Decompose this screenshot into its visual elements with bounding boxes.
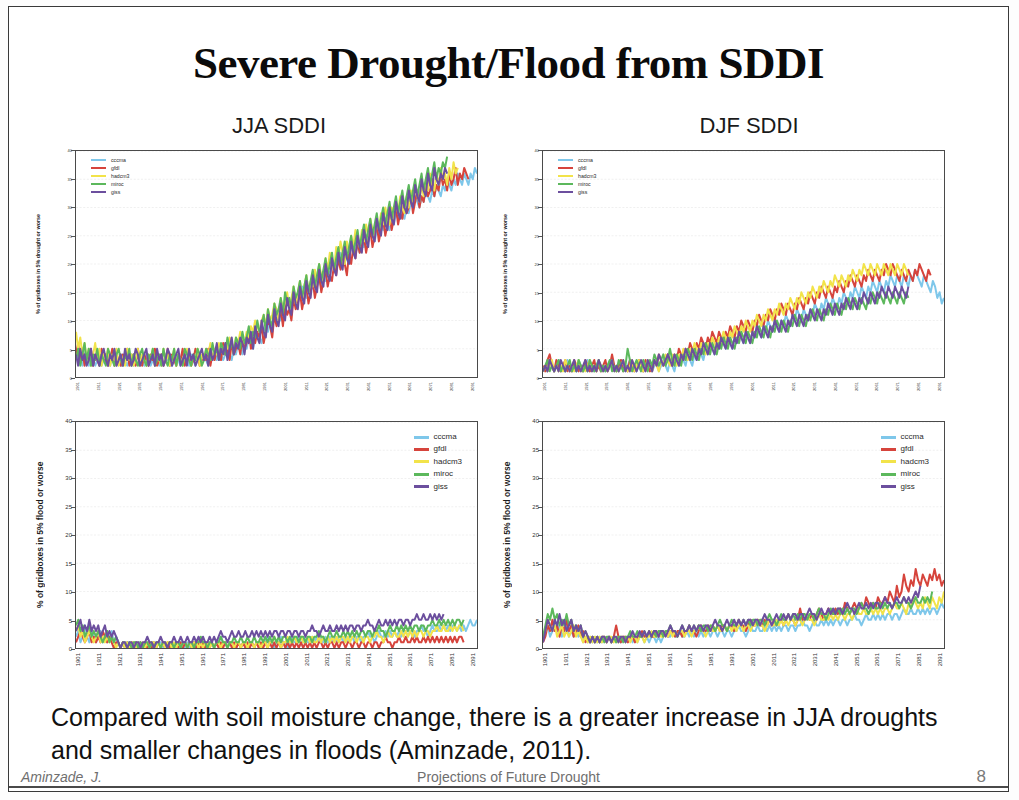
legend-label: cccma: [434, 431, 457, 443]
plot-area-djf-flood: 0510152025303540190119111921193119411951…: [542, 421, 945, 649]
legend-label: miroc: [434, 468, 454, 480]
x-tick-label: 1941: [625, 653, 631, 666]
plot-frame: [542, 150, 945, 378]
legend-label: cccma: [901, 431, 924, 443]
y-axis-label: % of gridboxes in 5% drought or worse: [35, 150, 41, 378]
x-tick-label: 2041: [833, 382, 838, 391]
x-tick-label: 1921: [117, 382, 122, 391]
y-tick-mark: [71, 421, 75, 422]
x-tick-label: 1901: [75, 653, 81, 666]
legend-label: giss: [578, 188, 587, 196]
legend-swatch-icon: [881, 448, 896, 451]
x-tick-label: 1991: [729, 653, 735, 666]
x-tick-label: 2051: [854, 653, 860, 666]
y-axis-label: % of gridboxes in 5% drought or worse: [502, 150, 508, 378]
legend-item-cccma: cccma: [881, 431, 929, 443]
x-tick-label: 1961: [200, 653, 206, 666]
x-tick-label: 2061: [874, 653, 880, 666]
footer-page-number: 8: [977, 767, 986, 787]
legend-label: gfdl: [578, 164, 586, 172]
x-tick-label: 2011: [304, 382, 309, 391]
x-tick-label: 1931: [604, 653, 610, 666]
y-tick-mark: [71, 236, 75, 237]
y-tick-mark: [71, 321, 75, 322]
x-tick-label: 2031: [812, 653, 818, 666]
legend-item-gfdl: gfdl: [91, 164, 129, 172]
x-tick-label: 1951: [179, 653, 185, 666]
x-tick-label: 2061: [407, 653, 413, 666]
x-tick-label: 2091: [937, 382, 942, 391]
x-tick-label: 1981: [708, 653, 714, 666]
y-tick-mark: [538, 592, 542, 593]
x-tick-label: 1931: [604, 382, 609, 391]
x-tick-label: 2021: [324, 653, 330, 666]
legend-item-hadcm3: hadcm3: [414, 456, 462, 468]
x-tick-label: 2041: [833, 653, 839, 666]
chart-legend: cccmagfdlhadcm3mirocgiss: [91, 156, 129, 196]
x-tick-label: 2011: [771, 382, 776, 391]
x-tick-label: 1971: [687, 653, 693, 666]
legend-label: giss: [901, 481, 915, 493]
x-tick-label: 2011: [771, 653, 777, 666]
y-tick-mark: [71, 621, 75, 622]
y-axis-label: % of gridboxes in 5% flood or worse: [35, 421, 45, 649]
x-tick-label: 1951: [179, 382, 184, 391]
y-tick-mark: [71, 293, 75, 294]
x-tick-label: 1971: [220, 382, 225, 391]
x-tick-label: 1991: [729, 382, 734, 391]
y-tick-mark: [71, 450, 75, 451]
footer-deck-title: Projections of Future Drought: [9, 769, 1008, 785]
y-tick-mark: [71, 592, 75, 593]
x-tick-label: 2071: [428, 653, 434, 666]
legend-item-giss: giss: [91, 188, 129, 196]
y-tick-mark: [71, 478, 75, 479]
plot-area-jja-drought: 0510152025303540190119111921193119411951…: [75, 150, 478, 378]
legend-swatch-icon: [881, 436, 896, 439]
x-tick-label: 1901: [542, 653, 548, 666]
y-tick-mark: [71, 264, 75, 265]
x-tick-label: 2041: [366, 653, 372, 666]
x-tick-label: 1961: [667, 653, 673, 666]
plot-frame: [75, 150, 478, 378]
y-tick-mark: [71, 535, 75, 536]
y-tick-mark: [71, 564, 75, 565]
legend-swatch-icon: [91, 183, 106, 185]
y-tick-mark: [538, 150, 542, 151]
y-tick-mark: [71, 150, 75, 151]
legend-item-gfdl: gfdl: [558, 164, 596, 172]
legend-item-gfdl: gfdl: [881, 443, 929, 455]
legend-label: gfdl: [111, 164, 119, 172]
y-tick-mark: [538, 350, 542, 351]
x-tick-label: 2051: [854, 382, 859, 391]
chart-legend: cccmagfdlhadcm3mirocgiss: [881, 431, 929, 493]
legend-swatch-icon: [414, 485, 429, 488]
legend-swatch-icon: [414, 436, 429, 439]
x-tick-label: 1981: [241, 653, 247, 666]
y-tick-mark: [71, 207, 75, 208]
y-tick-mark: [71, 507, 75, 508]
x-tick-label: 2081: [916, 382, 921, 391]
y-tick-mark: [538, 236, 542, 237]
y-tick-mark: [538, 179, 542, 180]
x-tick-label: 2031: [345, 382, 350, 391]
legend-item-gfdl: gfdl: [414, 443, 462, 455]
legend-item-giss: giss: [558, 188, 596, 196]
plot-area-djf-drought: 0510152025303540190119111921193119411951…: [542, 150, 945, 378]
chart-legend: cccmagfdlhadcm3mirocgiss: [414, 431, 462, 493]
chart-panel-djf-drought: % of gridboxes in 5% drought or worse051…: [502, 150, 945, 418]
y-tick-mark: [71, 350, 75, 351]
x-tick-label: 2031: [345, 653, 351, 666]
chart-panel-jja-drought: % of gridboxes in 5% drought or worse051…: [35, 150, 478, 418]
legend-swatch-icon: [558, 175, 573, 177]
y-tick-mark: [538, 450, 542, 451]
y-tick-mark: [71, 649, 75, 650]
x-tick-label: 2061: [874, 382, 879, 391]
slide-page: Severe Drought/Flood from SDDI JJA SDDI …: [8, 6, 1009, 792]
x-tick-label: 2021: [324, 382, 329, 391]
y-tick-mark: [538, 264, 542, 265]
x-tick-label: 2001: [283, 653, 289, 666]
y-tick-mark: [538, 293, 542, 294]
legend-item-miroc: miroc: [414, 468, 462, 480]
y-tick-mark: [538, 535, 542, 536]
legend-swatch-icon: [414, 473, 429, 476]
